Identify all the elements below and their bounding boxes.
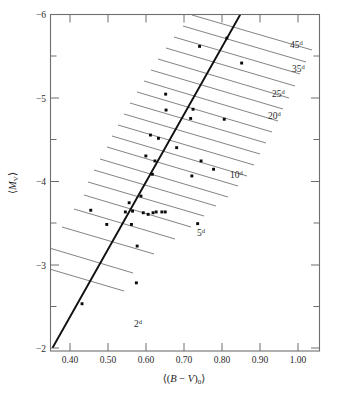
data-point <box>160 211 163 214</box>
y-tick-label: −2 <box>36 344 46 354</box>
data-point <box>200 160 203 163</box>
x-tick-label: 0.90 <box>252 355 269 365</box>
data-point <box>196 222 199 225</box>
data-point <box>212 168 215 171</box>
data-point <box>136 245 139 248</box>
data-point <box>192 108 195 111</box>
data-point <box>124 211 127 214</box>
y-tick-label: −5 <box>36 94 46 104</box>
x-axis-top-ticks <box>70 15 298 23</box>
period-label-25: 25d <box>272 88 286 99</box>
y-axis-title: ⟨MV⟩ <box>7 172 20 194</box>
y-axis-right-ticks <box>311 15 320 349</box>
x-tick-label: 0.40 <box>62 355 79 365</box>
y-axis-tick-labels: −6 −5 −4 −3 −2 <box>36 10 46 354</box>
data-point <box>190 175 193 178</box>
figure-container: −6 −5 −4 −3 −2 0.40 0.50 0.60 0.70 0.80 … <box>0 0 337 410</box>
data-point <box>105 223 108 226</box>
x-tick-label: 0.60 <box>138 355 155 365</box>
data-point <box>189 117 192 120</box>
period-label-5: 5d <box>197 227 206 238</box>
data-point <box>135 281 138 284</box>
period-luminosity-colour-plot: −6 −5 −4 −3 −2 0.40 0.50 0.60 0.70 0.80 … <box>0 0 337 410</box>
period-label-35: 35d <box>292 63 306 74</box>
period-label-20: 20d <box>268 110 282 121</box>
data-point <box>240 62 243 65</box>
pl-relation-line <box>53 15 240 347</box>
data-point <box>140 195 143 198</box>
data-point <box>149 134 152 137</box>
y-tick-label: −6 <box>36 10 46 20</box>
data-point <box>130 223 133 226</box>
x-tick-label: 1.00 <box>290 355 307 365</box>
data-point <box>164 211 167 214</box>
x-axis-bottom-ticks <box>70 343 298 351</box>
data-point <box>152 211 155 214</box>
data-point <box>164 93 167 96</box>
data-point <box>157 137 160 140</box>
x-tick-label: 0.50 <box>100 355 117 365</box>
data-point <box>175 146 178 149</box>
data-point <box>81 302 84 305</box>
period-label-45: 45d <box>290 39 304 50</box>
y-axis-major-ticks <box>51 15 60 349</box>
data-point <box>128 201 131 204</box>
data-point <box>131 210 134 213</box>
x-axis-title: ⟨(B − V)0⟩ <box>163 373 206 386</box>
data-point <box>147 213 150 216</box>
period-label-2: 2d <box>134 318 143 329</box>
data-point <box>198 45 201 48</box>
data-point <box>225 37 228 40</box>
x-axis-tick-labels: 0.40 0.50 0.60 0.70 0.80 0.90 1.00 <box>62 355 307 365</box>
data-point <box>151 173 154 176</box>
data-point <box>144 155 147 158</box>
data-point <box>223 118 226 121</box>
data-point <box>155 211 158 214</box>
data-point <box>142 211 145 214</box>
x-tick-label: 0.70 <box>176 355 193 365</box>
period-label-10: 10d <box>230 169 244 180</box>
x-tick-label: 0.80 <box>214 355 231 365</box>
y-tick-label: −3 <box>36 261 46 271</box>
data-point <box>89 209 92 212</box>
data-point <box>154 160 157 163</box>
y-tick-label: −4 <box>36 177 46 187</box>
period-isochrone-lines <box>46 15 312 291</box>
data-point <box>165 109 168 112</box>
period-isochrone-labels: 45d 35d 25d 20d 10d 5d 2d <box>134 39 306 329</box>
